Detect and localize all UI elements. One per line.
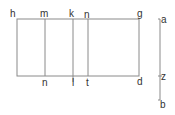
geometry-diagram: h m k n g n l t d a z b [0, 0, 175, 115]
label-d: d [137, 76, 143, 87]
label-l: l [72, 77, 74, 88]
label-n-bottom: n [42, 77, 48, 88]
label-b: b [160, 99, 166, 110]
label-h: h [10, 8, 16, 19]
label-m: m [40, 8, 48, 19]
label-k: k [69, 8, 75, 19]
label-a: a [161, 14, 167, 25]
label-t: t [86, 77, 89, 88]
rectangle-hgdn [17, 19, 139, 76]
label-z: z [161, 71, 166, 82]
label-n-top: n [84, 9, 90, 20]
label-g: g [137, 8, 143, 19]
